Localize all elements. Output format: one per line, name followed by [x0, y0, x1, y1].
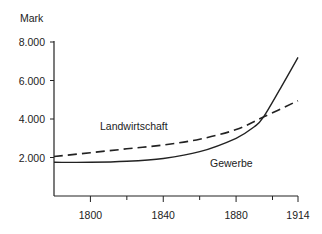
y-tick-label: 4.000 [19, 113, 45, 125]
x-tick-label: 1914 [286, 209, 310, 221]
line-chart: 2.0004.0006.0008.000 1800184018801914 Ma… [0, 0, 322, 234]
y-tick-label: 8.000 [19, 36, 45, 48]
y-tick-label: 6.000 [19, 75, 45, 87]
x-axis-ticks: 1800184018801914 [79, 196, 310, 221]
y-axis-label: Mark [20, 12, 44, 24]
y-axis-ticks: 2.0004.0006.0008.000 [19, 36, 54, 164]
label-landwirtschaft: Landwirtschaft [100, 120, 168, 132]
x-tick-label: 1840 [152, 209, 176, 221]
x-tick-label: 1880 [224, 209, 248, 221]
label-gewerbe: Gewerbe [210, 157, 253, 169]
series-landwirtschaft-line [54, 101, 298, 157]
series-gewerbe-line [54, 57, 298, 162]
y-tick-label: 2.000 [19, 152, 45, 164]
x-tick-label: 1800 [79, 209, 103, 221]
